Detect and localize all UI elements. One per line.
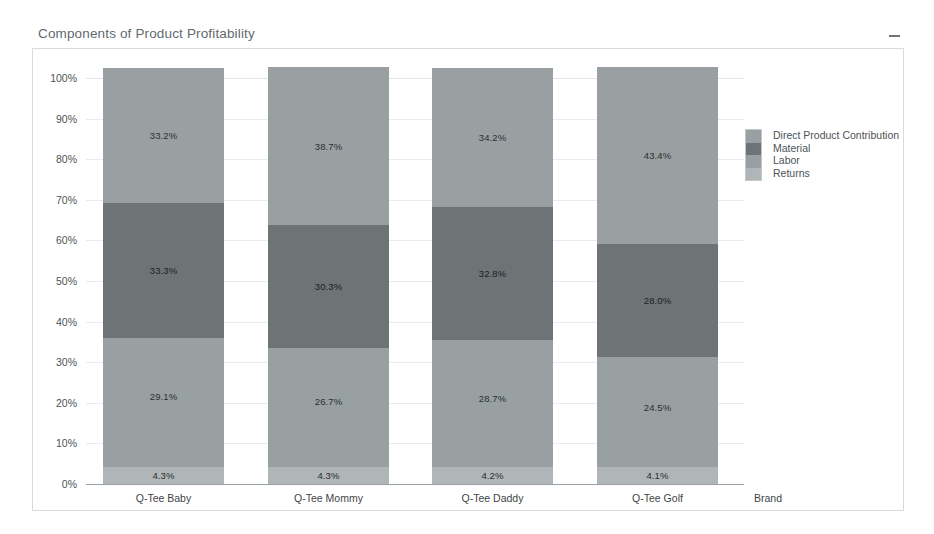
bar-segment-direct-product-contribution[interactable]: 34.2%: [432, 68, 553, 207]
y-axis-tick-label: 20%: [56, 397, 77, 409]
legend-swatch[interactable]: [746, 168, 761, 181]
bar-segment-value-label: 24.5%: [644, 402, 671, 413]
returns-separator-band: [597, 457, 718, 468]
x-axis-title: Brand: [754, 492, 782, 504]
bar-segment-material[interactable]: 32.8%: [432, 207, 553, 340]
bar-segment-returns[interactable]: 4.1%: [597, 467, 718, 484]
bar-segment-material[interactable]: 30.3%: [268, 225, 389, 348]
bar-q-tee-golf[interactable]: 4.1%24.5%28.0%43.4%: [597, 78, 718, 484]
y-axis-tick-label: 30%: [56, 356, 77, 368]
x-axis-tick-label: Q-Tee Golf: [597, 492, 718, 504]
gridline-0: [86, 484, 744, 485]
bar-q-tee-mommy[interactable]: 4.3%26.7%30.3%38.7%: [268, 78, 389, 484]
y-axis-tick-label: 70%: [56, 194, 77, 206]
bar-segment-value-label: 33.3%: [150, 265, 177, 276]
bar-q-tee-baby[interactable]: 4.3%29.1%33.3%33.2%: [103, 78, 224, 484]
bar-segment-direct-product-contribution[interactable]: 33.2%: [103, 68, 224, 203]
bar-segment-returns[interactable]: 4.2%: [432, 467, 553, 484]
legend-label-column: Direct Product ContributionMaterialLabor…: [773, 129, 899, 181]
bar-segment-value-label: 4.3%: [152, 470, 174, 481]
bar-segment-labor[interactable]: 24.5%: [597, 357, 718, 456]
bar-segment-value-label: 43.4%: [644, 150, 671, 161]
bar-segment-returns[interactable]: 4.3%: [103, 467, 224, 484]
bar-segment-value-label: 28.0%: [644, 295, 671, 306]
y-axis-tick-label: 40%: [56, 316, 77, 328]
x-axis-tick-label: Q-Tee Baby: [103, 492, 224, 504]
bar-segment-value-label: 26.7%: [315, 396, 342, 407]
page-title: Components of Product Profitability: [38, 26, 255, 41]
bar-segment-value-label: 30.3%: [315, 281, 342, 292]
bar-segment-value-label: 29.1%: [150, 391, 177, 402]
bar-segment-value-label: 4.2%: [481, 470, 503, 481]
bar-segment-returns[interactable]: 4.3%: [268, 467, 389, 484]
bar-segment-material[interactable]: 28.0%: [597, 244, 718, 358]
bar-segment-labor[interactable]: 28.7%: [432, 340, 553, 457]
bar-segment-material[interactable]: 33.3%: [103, 203, 224, 338]
returns-separator-band: [432, 456, 553, 467]
legend-swatch[interactable]: [746, 130, 761, 143]
y-axis-tick-label: 60%: [56, 234, 77, 246]
bar-segment-value-label: 4.3%: [317, 470, 339, 481]
bar-segment-direct-product-contribution[interactable]: 43.4%: [597, 67, 718, 243]
panel-header: Components of Product Profitability: [38, 26, 900, 50]
legend-label[interactable]: Material: [773, 142, 899, 155]
y-axis-tick-label: 0%: [62, 478, 77, 490]
bar-segment-direct-product-contribution[interactable]: 38.7%: [268, 67, 389, 224]
minimize-icon[interactable]: [889, 35, 900, 37]
bar-segment-value-label: 33.2%: [150, 130, 177, 141]
returns-separator-band: [268, 456, 389, 467]
legend-label[interactable]: Direct Product Contribution: [773, 129, 899, 142]
returns-separator-band: [103, 456, 224, 467]
bar-segment-value-label: 38.7%: [315, 141, 342, 152]
bar-segment-labor[interactable]: 26.7%: [268, 348, 389, 456]
legend-swatch[interactable]: [746, 155, 761, 168]
bar-q-tee-daddy[interactable]: 4.2%28.7%32.8%34.2%: [432, 78, 553, 484]
x-axis-tick-label: Q-Tee Daddy: [432, 492, 553, 504]
bar-segment-value-label: 34.2%: [479, 132, 506, 143]
legend-swatch-column: [745, 129, 762, 181]
bar-segment-value-label: 28.7%: [479, 393, 506, 404]
legend-label[interactable]: Labor: [773, 154, 899, 167]
chart-legend: Direct Product ContributionMaterialLabor…: [745, 129, 899, 181]
x-axis-tick-label: Q-Tee Mommy: [268, 492, 389, 504]
y-axis-tick-label: 80%: [56, 153, 77, 165]
bar-segment-value-label: 4.1%: [646, 470, 668, 481]
legend-swatch[interactable]: [746, 143, 761, 156]
chart-panel: Components of Product Profitability Bran…: [0, 0, 934, 534]
bar-segment-value-label: 32.8%: [479, 268, 506, 279]
legend-label[interactable]: Returns: [773, 167, 899, 180]
y-axis-tick-label: 10%: [56, 437, 77, 449]
chart-card: Brand 100%90%80%70%60%50%40%30%20%10%0%4…: [32, 48, 904, 511]
bar-segment-labor[interactable]: 29.1%: [103, 338, 224, 456]
y-axis-tick-label: 90%: [56, 113, 77, 125]
y-axis-tick-label: 100%: [50, 72, 77, 84]
plot-area: Brand 100%90%80%70%60%50%40%30%20%10%0%4…: [86, 78, 744, 484]
y-axis-tick-label: 50%: [56, 275, 77, 287]
